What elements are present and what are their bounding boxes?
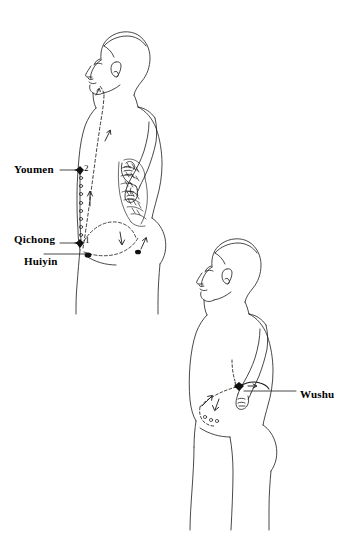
point-marker-posterior — [135, 250, 141, 255]
point-number-youmen: 2 — [84, 163, 89, 173]
label-youmen: Youmen — [14, 163, 54, 175]
diagram-background — [0, 0, 345, 539]
label-qichong: Qichong — [14, 233, 55, 245]
label-huiyin: Huiyin — [24, 255, 58, 267]
anatomical-diagram-canvas — [0, 0, 345, 539]
label-wushu: Wushu — [300, 388, 334, 400]
point-number-wushu: 1 — [233, 380, 238, 390]
point-marker-huiyin — [85, 252, 92, 257]
point-number-qichong: 1 — [85, 235, 90, 245]
